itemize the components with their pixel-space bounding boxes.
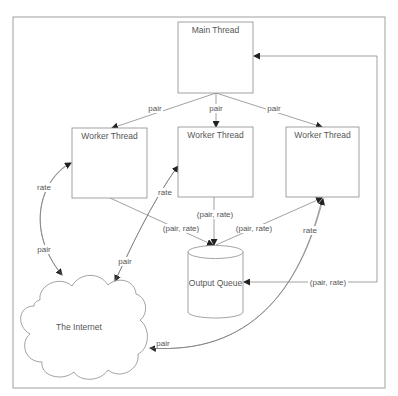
edge-worker1-to-queue <box>110 198 213 245</box>
label-w1-rate: rate <box>37 183 51 192</box>
node-worker-thread-2: Worker Thread <box>178 127 253 197</box>
worker1-label: Worker Thread <box>81 131 138 141</box>
label-main-w2: pair <box>209 104 223 113</box>
node-internet-cloud: The Internet <box>21 275 148 379</box>
diagram-canvas: Main Thread Worker Thread Worker Thread … <box>0 0 398 396</box>
label-main-w1: pair <box>148 104 162 113</box>
main-thread-label: Main Thread <box>192 25 240 35</box>
node-worker-thread-3: Worker Thread <box>286 127 359 197</box>
label-w1-pair: pair <box>37 245 51 254</box>
worker3-label: Worker Thread <box>294 130 351 140</box>
edge-main-to-worker1 <box>112 93 216 128</box>
label-queue-main: (pair, rate) <box>310 278 347 287</box>
node-output-queue: Output Queue <box>188 246 243 319</box>
edge-worker1-internet <box>40 163 71 275</box>
label-w3-queue: (pair, rate) <box>236 224 273 233</box>
label-w2-pair: pair <box>118 257 132 266</box>
output-queue-label: Output Queue <box>189 278 243 288</box>
node-worker-thread-1: Worker Thread <box>72 128 147 198</box>
internet-label: The Internet <box>56 322 102 332</box>
label-w2-rate: rate <box>158 188 172 197</box>
worker2-label: Worker Thread <box>187 130 244 140</box>
label-w1-queue: (pair, rate) <box>163 224 200 233</box>
label-main-w3: pair <box>267 104 281 113</box>
label-w3-rate: rate <box>303 226 317 235</box>
label-w3-pair: pair <box>156 339 170 348</box>
edge-queue-worker3 <box>216 198 322 245</box>
label-w2-queue: (pair, rate) <box>197 210 234 219</box>
node-main-thread: Main Thread <box>178 22 253 93</box>
